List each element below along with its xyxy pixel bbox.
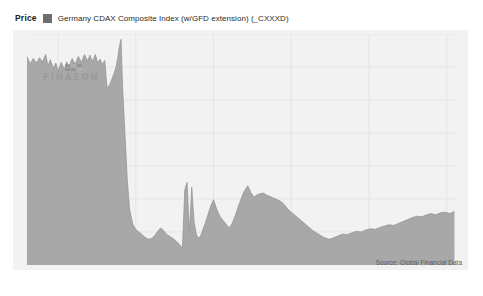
- chart-screenshot: Price Germany CDAX Composite Index (w/GF…: [0, 0, 483, 296]
- price-area-path: [27, 39, 454, 265]
- chart-legend: Price Germany CDAX Composite Index (w/GF…: [15, 13, 289, 23]
- legend-color-swatch: [43, 14, 52, 23]
- legend-series-label: Germany CDAX Composite Index (w/GFD exte…: [58, 14, 289, 23]
- chart-plot-frame: 05101520253035191519201925193019351940 F…: [13, 30, 468, 270]
- source-attribution: Source: Global Financial Data: [376, 259, 462, 266]
- area-series-svg: [27, 34, 456, 265]
- legend-price-label: Price: [15, 13, 37, 23]
- plot-area: 05101520253035191519201925193019351940: [27, 34, 456, 265]
